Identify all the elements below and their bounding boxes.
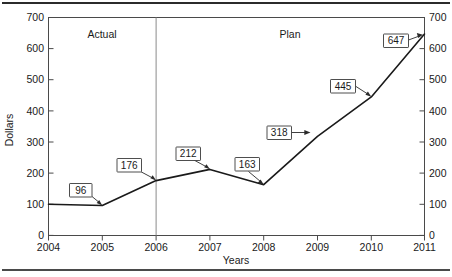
line-chart-plot: 700 600 500 400 300 200 100 0 700 600 50… bbox=[0, 0, 452, 277]
region-label-plan: Plan bbox=[279, 28, 300, 40]
callout-318-label: 318 bbox=[271, 127, 288, 138]
x-tick-2010: 2010 bbox=[360, 241, 384, 253]
y-left-tick-300: 300 bbox=[26, 136, 44, 148]
y-axis-right-ticks bbox=[420, 18, 425, 236]
y-axis-title: Dollars bbox=[3, 114, 15, 147]
callout-647: 647 bbox=[384, 33, 424, 48]
callout-96-label: 96 bbox=[75, 185, 87, 196]
y-left-tick-700: 700 bbox=[26, 11, 44, 23]
y-left-tick-500: 500 bbox=[26, 73, 44, 85]
x-tick-2009: 2009 bbox=[306, 241, 330, 253]
x-tick-2006: 2006 bbox=[144, 241, 168, 253]
x-tick-2011: 2011 bbox=[413, 241, 436, 253]
callout-176-label: 176 bbox=[121, 160, 138, 171]
y-right-tick-100: 100 bbox=[429, 198, 447, 210]
callout-96: 96 bbox=[70, 184, 103, 206]
callout-318: 318 bbox=[267, 126, 311, 140]
x-tick-2004: 2004 bbox=[37, 241, 61, 253]
callout-163-label: 163 bbox=[239, 159, 256, 170]
y-right-tick-300: 300 bbox=[429, 136, 447, 148]
x-axis-ticks bbox=[49, 236, 425, 241]
dollars-data-line bbox=[49, 34, 425, 206]
y-left-tick-100: 100 bbox=[26, 198, 44, 210]
callout-212: 212 bbox=[176, 147, 210, 169]
callout-445-label: 445 bbox=[335, 81, 352, 92]
callout-176: 176 bbox=[117, 159, 156, 181]
x-tick-2005: 2005 bbox=[91, 241, 115, 253]
chart-figure: 700 600 500 400 300 200 100 0 700 600 50… bbox=[0, 0, 452, 277]
y-right-tick-700: 700 bbox=[429, 11, 447, 23]
callout-445: 445 bbox=[331, 80, 372, 97]
y-right-tick-200: 200 bbox=[429, 167, 447, 179]
x-tick-2007: 2007 bbox=[198, 241, 222, 253]
callout-647-label: 647 bbox=[388, 35, 405, 46]
region-label-actual: Actual bbox=[87, 28, 116, 40]
x-axis-title: Years bbox=[223, 254, 249, 266]
y-axis-left-ticks bbox=[49, 18, 54, 236]
y-right-tick-500: 500 bbox=[429, 73, 447, 85]
y-left-tick-200: 200 bbox=[26, 167, 44, 179]
y-left-tick-400: 400 bbox=[26, 105, 44, 117]
y-left-tick-0: 0 bbox=[38, 229, 44, 241]
x-tick-2008: 2008 bbox=[252, 241, 276, 253]
y-right-tick-0: 0 bbox=[429, 229, 435, 241]
callout-212-label: 212 bbox=[180, 148, 197, 159]
y-left-tick-600: 600 bbox=[26, 42, 44, 54]
y-right-tick-400: 400 bbox=[429, 105, 447, 117]
y-right-tick-600: 600 bbox=[429, 42, 447, 54]
